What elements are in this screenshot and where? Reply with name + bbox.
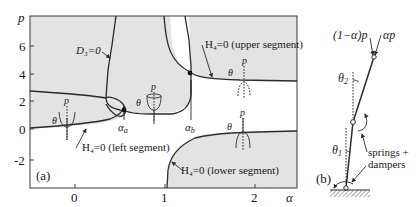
svg-text:p: p bbox=[63, 95, 69, 106]
bar-upper bbox=[353, 57, 374, 122]
joint-middle bbox=[351, 120, 356, 125]
springs-label-line1: springs + bbox=[368, 146, 409, 158]
pointer-middle bbox=[362, 134, 367, 152]
y-tick-2: 2 bbox=[19, 94, 26, 109]
svg-text:θ: θ bbox=[228, 67, 233, 78]
svg-text:p: p bbox=[239, 107, 245, 118]
y-tick-6: 6 bbox=[19, 39, 26, 54]
svg-text:p: p bbox=[241, 55, 247, 66]
panel-b: (1−α)p αp θ2 θ1 springs + dampers bbox=[316, 28, 409, 197]
panel-a-label: (a) bbox=[36, 168, 50, 183]
load-arrow-right bbox=[375, 35, 381, 55]
x-tick-2: 2 bbox=[251, 190, 258, 205]
x-axis-label: α bbox=[286, 190, 294, 205]
y-tick-0: 0 bbox=[19, 122, 26, 137]
svg-text:θ: θ bbox=[227, 121, 232, 132]
bar-lower bbox=[346, 122, 353, 188]
shaded-region-d3 bbox=[30, 16, 116, 100]
joint-top bbox=[372, 55, 376, 59]
theta2-label: θ2 bbox=[338, 71, 348, 86]
y-tick-neg2: -2 bbox=[14, 153, 25, 168]
point-alpha-b bbox=[188, 71, 193, 76]
panel-b-label: (b) bbox=[316, 171, 331, 186]
y-tick-4: 4 bbox=[19, 67, 26, 82]
shaded-region-lower bbox=[167, 131, 297, 188]
label-h4-left: H₄=0 (left segment) bbox=[82, 141, 170, 154]
x-tick-1: 1 bbox=[161, 190, 168, 205]
x-tick-0: 0 bbox=[71, 190, 78, 205]
svg-text:θ: θ bbox=[52, 115, 57, 126]
theta2-arc bbox=[353, 80, 359, 82]
figure: p 6 4 2 0 -2 0 1 2 α bbox=[0, 0, 419, 207]
spring-arc-middle bbox=[358, 114, 367, 131]
label-d3: D₃=0 bbox=[75, 44, 101, 56]
label-h4-upper: H₄=0 (upper segment) bbox=[205, 38, 303, 51]
pointer-base bbox=[352, 166, 366, 182]
load-right-label: αp bbox=[383, 28, 395, 42]
svg-text:p: p bbox=[150, 81, 156, 92]
label-alpha-b: αb bbox=[185, 121, 195, 135]
ground-hatch bbox=[330, 190, 370, 197]
y-axis-label: p bbox=[17, 10, 25, 25]
label-h4-lower: H₄=0 (lower segment) bbox=[181, 164, 279, 177]
load-arrow-left bbox=[370, 38, 373, 55]
springs-label-line2: dampers bbox=[368, 158, 405, 170]
label-alpha-a: αa bbox=[118, 121, 128, 135]
panel-a: p 6 4 2 0 -2 0 1 2 α bbox=[14, 10, 303, 205]
svg-text:θ: θ bbox=[136, 97, 141, 108]
load-left-label: (1−α)p bbox=[333, 28, 367, 42]
point-alpha-a bbox=[122, 108, 127, 113]
theta1-label: θ1 bbox=[332, 143, 342, 158]
